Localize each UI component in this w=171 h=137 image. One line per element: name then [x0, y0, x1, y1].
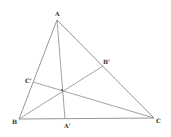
- label-b: B: [12, 118, 17, 125]
- label-a: A: [54, 10, 60, 17]
- cevians: [19, 20, 154, 119]
- triangle-diagram: A B C A' B' C': [0, 0, 171, 137]
- label-c-prime: C': [25, 77, 32, 84]
- cevian-a-a1: [57, 20, 65, 119]
- label-a-prime: A': [63, 122, 71, 129]
- concurrency-point: [61, 89, 63, 91]
- label-b-prime: B': [103, 58, 110, 65]
- triangle-edges: [19, 20, 154, 119]
- label-c: C: [156, 117, 161, 124]
- edge-bc: [19, 118, 154, 119]
- edge-ab: [19, 20, 57, 119]
- vertex-labels: A B C A' B' C': [12, 10, 161, 129]
